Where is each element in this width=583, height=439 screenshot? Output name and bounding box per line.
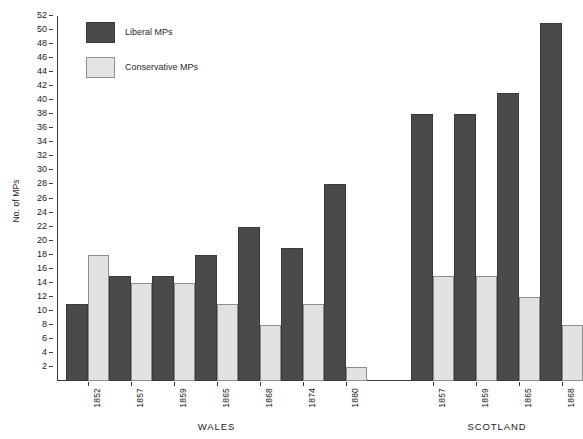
y-tick-label: 36: [37, 123, 47, 132]
y-tick: 8: [53, 324, 57, 325]
y-tick-label: 38: [37, 109, 47, 118]
y-tick: 2: [53, 366, 57, 367]
x-tick-mark: [433, 382, 434, 386]
y-tick: 14: [53, 282, 57, 283]
x-tick-mark: [260, 382, 261, 386]
y-tick-mark: [49, 57, 53, 58]
y-tick-mark: [49, 226, 53, 227]
y-tick-label: 10: [37, 305, 47, 314]
bar-liberal: [109, 276, 131, 381]
x-tick-label: 1868: [264, 388, 274, 408]
y-tick: 48: [53, 43, 57, 44]
bar-conservative: [260, 325, 282, 381]
y-tick-mark: [49, 99, 53, 100]
x-tick-mark: [303, 382, 304, 386]
y-tick-mark: [49, 282, 53, 283]
bar-conservative: [217, 304, 239, 381]
y-tick-label: 8: [42, 319, 47, 328]
y-tick-label: 34: [37, 137, 47, 146]
x-tick-label: 1852: [92, 388, 102, 408]
y-axis-title: No. of MPs: [11, 161, 21, 241]
y-tick-mark: [49, 254, 53, 255]
y-tick-mark: [49, 29, 53, 30]
y-tick-mark: [49, 43, 53, 44]
bar-conservative: [519, 297, 541, 381]
bar-liberal: [152, 276, 174, 381]
group-label: SCOTLAND: [468, 421, 527, 432]
y-tick-mark: [49, 296, 53, 297]
y-tick-mark: [49, 127, 53, 128]
y-tick-label: 28: [37, 179, 47, 188]
x-tick-label: 1880: [350, 388, 360, 408]
y-tick: 46: [53, 57, 57, 58]
y-tick-label: 52: [37, 11, 47, 20]
y-tick-mark: [49, 268, 53, 269]
y-tick-mark: [49, 324, 53, 325]
y-tick: 44: [53, 71, 57, 72]
x-tick-mark: [346, 382, 347, 386]
y-tick-mark: [49, 169, 53, 170]
x-tick-mark: [88, 382, 89, 386]
bar-conservative: [562, 325, 583, 381]
x-tick-label: 1857: [437, 388, 447, 408]
bar-conservative: [433, 276, 455, 381]
y-tick: 10: [53, 310, 57, 311]
y-tick: 24: [53, 212, 57, 213]
group-label: WALES: [198, 421, 235, 432]
y-tick-mark: [49, 212, 53, 213]
x-tick-mark: [519, 382, 520, 386]
bar-liberal: [281, 248, 303, 381]
y-tick-mark: [49, 366, 53, 367]
y-tick: 30: [53, 169, 57, 170]
bar-liberal: [411, 114, 433, 381]
x-tick-label: 1865: [523, 388, 533, 408]
y-tick-label: 24: [37, 207, 47, 216]
y-tick: 36: [53, 127, 57, 128]
y-tick-label: 16: [37, 263, 47, 272]
y-tick-mark: [49, 71, 53, 72]
bar-conservative: [174, 283, 196, 381]
bar-liberal: [324, 184, 346, 381]
y-tick: 18: [53, 254, 57, 255]
x-tick-mark: [174, 382, 175, 386]
y-tick-label: 2: [42, 361, 47, 370]
x-tick-mark: [131, 382, 132, 386]
plot-area: 2468101214161820222426283032343638404244…: [57, 16, 512, 381]
y-tick-label: 20: [37, 235, 47, 244]
y-tick: 38: [53, 113, 57, 114]
bar-liberal: [195, 255, 217, 381]
y-tick: 4: [53, 352, 57, 353]
x-tick-label: 1857: [135, 388, 145, 408]
y-tick-label: 14: [37, 277, 47, 286]
y-tick: 50: [53, 29, 57, 30]
y-tick-label: 44: [37, 67, 47, 76]
y-tick-mark: [49, 240, 53, 241]
x-tick-label: 1865: [221, 388, 231, 408]
x-tick-mark: [562, 382, 563, 386]
y-tick-mark: [49, 85, 53, 86]
x-tick-label: 1859: [480, 388, 490, 408]
bar-liberal: [238, 227, 260, 381]
y-tick-mark: [49, 15, 53, 16]
y-tick-mark: [49, 198, 53, 199]
y-tick-label: 4: [42, 347, 47, 356]
bar-conservative: [131, 283, 153, 381]
x-tick-mark: [476, 382, 477, 386]
x-tick-label: 1868: [566, 388, 576, 408]
bar-liberal: [540, 23, 562, 381]
y-tick-label: 48: [37, 39, 47, 48]
y-tick-mark: [49, 141, 53, 142]
y-tick: 20: [53, 240, 57, 241]
y-tick: 28: [53, 183, 57, 184]
x-tick-label: 1859: [178, 388, 188, 408]
y-tick-mark: [49, 338, 53, 339]
y-tick-label: 22: [37, 221, 47, 230]
y-tick-mark: [49, 352, 53, 353]
bar-liberal: [497, 93, 519, 381]
bar-conservative: [346, 367, 368, 381]
y-tick: 12: [53, 296, 57, 297]
x-tick-mark: [217, 382, 218, 386]
y-tick-label: 46: [37, 53, 47, 62]
y-tick: 26: [53, 198, 57, 199]
y-tick-label: 40: [37, 95, 47, 104]
